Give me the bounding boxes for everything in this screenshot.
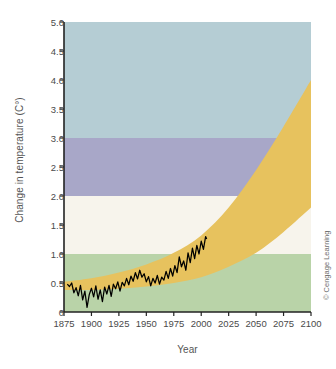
y-tick-label: 0.5 — [24, 278, 64, 289]
y-tick-label: 4.5 — [24, 46, 64, 57]
y-tick-label: 2.5 — [24, 162, 64, 173]
y-tick-label: 1.5 — [24, 220, 64, 231]
x-tick-label: 2100 — [291, 318, 331, 329]
y-tick-label: 0 — [24, 307, 64, 318]
y-tick-label: 4.0 — [24, 75, 64, 86]
y-tick-label: 5.0 — [24, 17, 64, 28]
y-tick-label: 1.0 — [24, 249, 64, 260]
severe-risk-band — [64, 22, 311, 138]
y-tick-label: 2.0 — [24, 191, 64, 202]
y-tick-label: 3.5 — [24, 104, 64, 115]
y-tick-label: 3.0 — [24, 133, 64, 144]
climate-projection-chart: Change in temperature (C°) Year © Cengag… — [0, 0, 336, 369]
